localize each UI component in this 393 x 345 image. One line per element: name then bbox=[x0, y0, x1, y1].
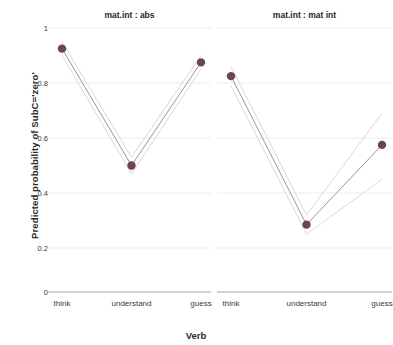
x-tick-label: think bbox=[223, 299, 240, 308]
x-tick-label: understand bbox=[286, 299, 326, 308]
data-point bbox=[227, 72, 235, 80]
plot-area bbox=[48, 0, 211, 345]
y-tick-label: 1 bbox=[12, 24, 48, 33]
data-point bbox=[58, 44, 66, 52]
panel-mat-int-mat-int: mat.int : mat int thinkunderstandguess bbox=[217, 0, 392, 345]
plot-area bbox=[217, 0, 392, 345]
confidence-interval-line bbox=[62, 56, 201, 174]
y-tick-label: 0 bbox=[12, 288, 48, 297]
x-tick-label: think bbox=[54, 299, 71, 308]
data-point bbox=[127, 161, 135, 169]
x-tick-label: understand bbox=[111, 299, 151, 308]
data-point bbox=[378, 141, 386, 149]
x-tick-label: guess bbox=[190, 299, 211, 308]
y-tick-label: 0.8 bbox=[12, 79, 48, 88]
confidence-interval-line bbox=[231, 86, 382, 235]
series-line bbox=[62, 49, 201, 166]
y-tick-label: 0.4 bbox=[12, 189, 48, 198]
data-point bbox=[197, 58, 205, 66]
x-axis-label: Verb bbox=[0, 330, 392, 341]
x-tick-label: guess bbox=[371, 299, 392, 308]
y-tick-label: 0.2 bbox=[12, 244, 48, 253]
y-tick-label: 0.6 bbox=[12, 134, 48, 143]
series-line bbox=[231, 76, 382, 225]
confidence-interval-line bbox=[62, 42, 201, 158]
panel-mat-int-abs: mat.int : abs thinkunderstandguess bbox=[48, 0, 211, 345]
data-point bbox=[302, 220, 310, 228]
y-axis-ticks: 10.80.60.40.20 bbox=[0, 0, 48, 345]
